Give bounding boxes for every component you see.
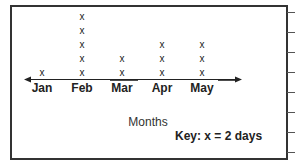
- x-marker: x: [77, 12, 87, 22]
- x-marker: x: [77, 68, 87, 78]
- x-marker: x: [157, 68, 167, 78]
- x-marker: x: [157, 54, 167, 64]
- x-marker: x: [197, 68, 207, 78]
- x-marker: x: [77, 54, 87, 64]
- right-arrow-icon: [235, 77, 242, 83]
- chart-key: Key: x = 2 days: [175, 129, 262, 143]
- x-marker: x: [77, 40, 87, 50]
- x-marker: x: [117, 68, 127, 78]
- x-marker: x: [197, 54, 207, 64]
- x-marker: x: [77, 26, 87, 36]
- month-label-apr: Apr: [142, 81, 182, 95]
- x-axis-label: Months: [118, 115, 178, 129]
- x-marker: x: [157, 40, 167, 50]
- month-label-jan: Jan: [22, 81, 62, 95]
- x-marker: x: [37, 68, 47, 78]
- month-label-feb: Feb: [62, 81, 102, 95]
- month-label-may: May: [182, 81, 222, 95]
- month-label-mar: Mar: [102, 81, 142, 95]
- x-marker: x: [117, 54, 127, 64]
- x-marker: x: [197, 40, 207, 50]
